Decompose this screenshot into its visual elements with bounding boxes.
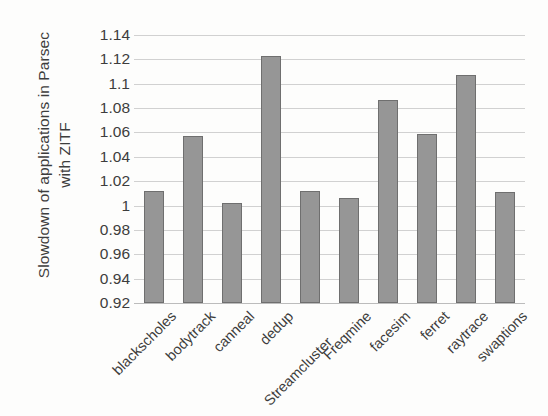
y-axis-tick-label: 1.02 xyxy=(100,172,130,190)
y-axis-tick-label: 1.1 xyxy=(108,75,130,93)
bar-facesim[interactable] xyxy=(378,100,398,303)
bar-bodytrack[interactable] xyxy=(183,136,203,303)
bar-blackscholes[interactable] xyxy=(144,191,164,303)
x-axis-category-labels: blackscholesbodytrackcannealdedupStreamc… xyxy=(134,304,525,414)
x-axis-label-ferret: ferret xyxy=(417,308,452,343)
y-axis-tick-label: 1.04 xyxy=(100,148,130,166)
plot-area xyxy=(134,35,525,303)
x-axis-label-freqmine: Freqmine xyxy=(320,308,375,363)
y-axis-tick-label: 0.98 xyxy=(100,221,130,239)
x-axis-label-blackscholes: blackscholes xyxy=(109,308,179,378)
bar-series xyxy=(134,35,525,303)
x-axis-label-canneal: canneal xyxy=(210,308,257,355)
y-axis-title-line-1: Slowdown of applications in Parsec xyxy=(34,32,55,278)
bar-chart: Slowdown of applications in Parsec with … xyxy=(0,0,548,416)
y-axis-tick-label: 1.08 xyxy=(100,99,130,117)
bar-freqmine[interactable] xyxy=(339,198,359,303)
bar-dedup[interactable] xyxy=(261,56,281,303)
bar-ferret[interactable] xyxy=(417,134,437,303)
y-axis-tick-label: 0.96 xyxy=(100,245,130,263)
bar-streamcluster[interactable] xyxy=(300,191,320,303)
y-axis-title-line-2: with ZITF xyxy=(55,122,76,187)
y-axis-tick-labels: 1.141.121.11.081.061.041.0210.980.960.94… xyxy=(82,35,130,303)
bar-swaptions[interactable] xyxy=(495,192,515,303)
x-axis-label-dedup: dedup xyxy=(256,308,296,348)
y-axis-tick-label: 1.12 xyxy=(100,50,130,68)
y-axis-tick-label: 1.14 xyxy=(100,26,130,44)
y-axis-tick-label: 1 xyxy=(121,197,130,215)
bar-raytrace[interactable] xyxy=(456,75,476,303)
y-axis-tick-label: 0.92 xyxy=(100,294,130,312)
x-axis-label-facesim: facesim xyxy=(367,308,414,355)
y-axis-tick-label: 1.06 xyxy=(100,123,130,141)
y-axis-tick-label: 0.94 xyxy=(100,270,130,288)
bar-canneal[interactable] xyxy=(222,203,242,303)
y-axis-title: Slowdown of applications in Parsec with … xyxy=(25,5,85,305)
